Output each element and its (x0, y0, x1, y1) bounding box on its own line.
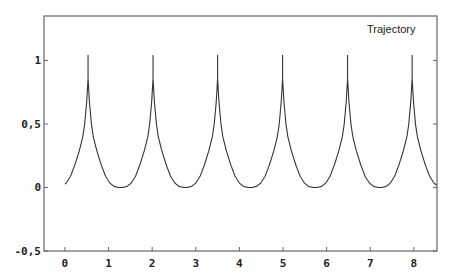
x-axis-tick-labels: 012345678 (62, 257, 418, 270)
y-tick-label: 0,5 (21, 118, 41, 131)
axis-ticks (44, 60, 437, 251)
y-tick-label: -0,5 (15, 245, 42, 258)
x-tick-label: 2 (149, 257, 156, 270)
x-tick-label: 1 (105, 257, 112, 270)
x-tick-label: 4 (236, 257, 243, 270)
x-tick-label: 3 (192, 257, 199, 270)
x-tick-label: 5 (280, 257, 287, 270)
y-tick-label: 0 (34, 181, 41, 194)
x-tick-label: 6 (323, 257, 330, 270)
trajectory-chart: 012345678 -0,500,51 Trajectory (0, 0, 455, 279)
y-axis-tick-labels: -0,500,51 (15, 54, 42, 258)
y-tick-label: 1 (34, 54, 41, 67)
x-tick-label: 7 (367, 257, 374, 270)
legend-label-trajectory: Trajectory (367, 23, 416, 35)
x-tick-label: 0 (62, 257, 69, 270)
trajectory-line (65, 55, 437, 187)
plot-frame (44, 16, 437, 251)
x-tick-label: 8 (411, 257, 418, 270)
